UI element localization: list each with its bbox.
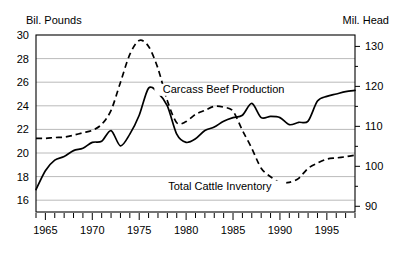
y-right-tick-label: 100: [365, 160, 383, 172]
x-tick-label: 1990: [268, 224, 292, 236]
x-tick-label: 1975: [127, 224, 151, 236]
x-tick-label: 1965: [33, 224, 57, 236]
y-left-tick-label: 22: [17, 123, 29, 135]
y-right-tick-label: 110: [365, 120, 383, 132]
y-right-tick-label: 90: [365, 200, 377, 212]
y-right-tick-label: 120: [365, 80, 383, 92]
series-line-1: [36, 87, 355, 190]
y-left-tick-label: 30: [17, 29, 29, 41]
y-left-tick-label: 16: [17, 194, 29, 206]
y-axis-right-ticks: 90100110120130: [355, 40, 383, 212]
y-left-tick-label: 26: [17, 76, 29, 88]
data-series: [36, 40, 355, 189]
x-tick-label: 1985: [221, 224, 245, 236]
line-chart-plot: 1965197019751980198519901995 16182022242…: [0, 0, 398, 259]
y-left-tick-label: 20: [17, 147, 29, 159]
x-tick-label: 1980: [174, 224, 198, 236]
series-annotations: Carcass Beef ProductionTotal Cattle Inve…: [154, 83, 293, 193]
series-line-2: [36, 40, 355, 183]
x-axis-ticks: 1965197019751980198519901995: [33, 213, 355, 236]
series-annotation-label-2: Total Cattle Inventory: [168, 180, 272, 192]
y-right-tick-label: 130: [365, 40, 383, 52]
series-annotation-label-1: Carcass Beef Production: [163, 83, 285, 95]
y-left-tick-label: 18: [17, 171, 29, 183]
x-tick-label: 1995: [315, 224, 339, 236]
chart-container: Bil. Pounds Mil. Head 196519701975198019…: [0, 0, 398, 259]
y-axis-left-ticks: 1618202224262830: [17, 29, 29, 206]
y-left-tick-label: 28: [17, 53, 29, 65]
y-left-tick-label: 24: [17, 100, 29, 112]
x-tick-label: 1970: [80, 224, 104, 236]
